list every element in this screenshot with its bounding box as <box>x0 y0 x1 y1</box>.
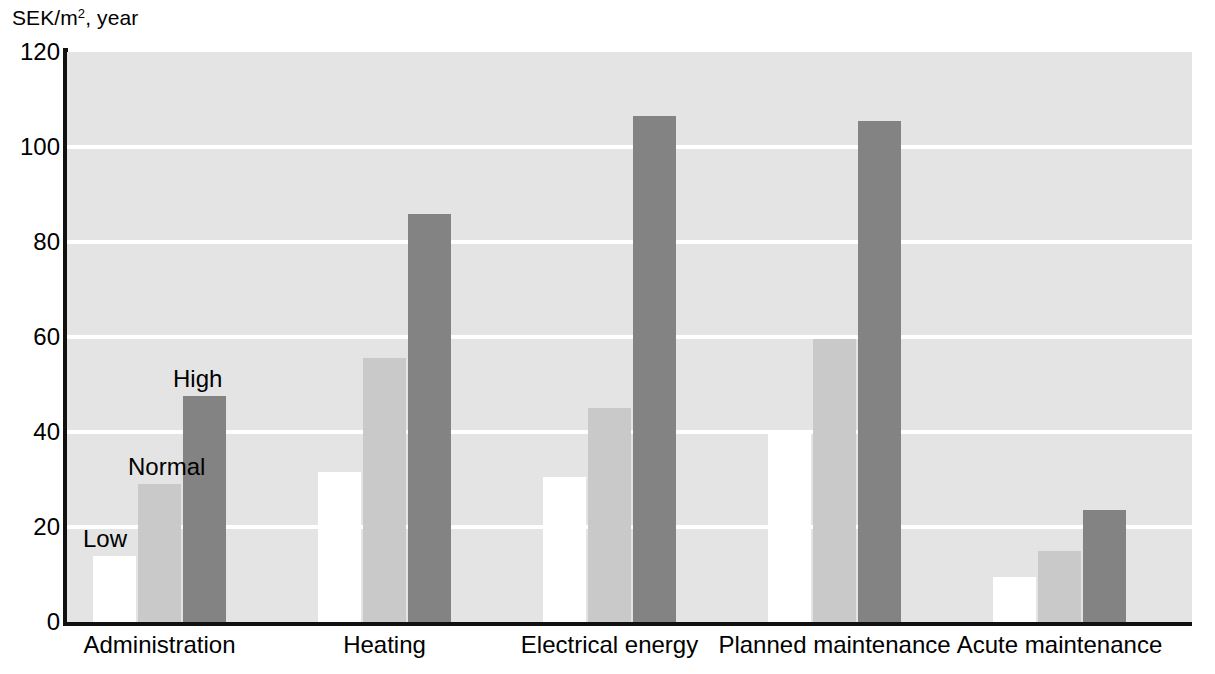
x-axis-category-label: Heating <box>343 630 426 660</box>
y-axis-tick-label: 80 <box>2 230 60 254</box>
x-axis-category-labels: AdministrationHeatingElectrical energyPl… <box>67 630 1192 670</box>
bar <box>543 477 586 622</box>
bar <box>408 214 451 623</box>
bar <box>93 556 136 623</box>
y-axis-tick-label: 100 <box>2 135 60 159</box>
y-axis-unit-prefix: SEK/m <box>12 6 78 29</box>
y-axis-tick-label: 40 <box>2 420 60 444</box>
bar <box>318 472 361 622</box>
y-axis-unit-label: SEK/m2, year <box>12 6 138 30</box>
x-axis-category-label: Administration <box>83 630 235 660</box>
bar <box>993 577 1036 622</box>
y-axis-tick-label: 60 <box>2 325 60 349</box>
bar <box>858 121 901 622</box>
bar <box>588 408 631 622</box>
series-annotation-low: Low <box>83 526 127 552</box>
x-axis-category-label: Planned maintenance <box>718 630 950 660</box>
y-axis-tick-label: 0 <box>2 610 60 634</box>
x-axis-category-label: Electrical energy <box>521 630 698 660</box>
y-axis-unit-suffix: , year <box>85 6 138 29</box>
series-annotation-normal: Normal <box>128 454 205 480</box>
bar <box>768 432 811 622</box>
gridline <box>67 335 1192 339</box>
bar <box>1083 510 1126 622</box>
bar <box>363 358 406 622</box>
bar <box>633 116 676 622</box>
y-axis-tick-labels: 020406080100120 <box>0 52 60 622</box>
y-axis-tick-label: 120 <box>2 40 60 64</box>
x-axis-category-label: Acute maintenance <box>957 630 1162 660</box>
plot-area: LowNormalHigh <box>67 52 1192 622</box>
bar <box>183 396 226 622</box>
gridline <box>67 145 1192 149</box>
bar-chart-figure: SEK/m2, year 020406080100120 LowNormalHi… <box>0 0 1215 674</box>
gridline <box>67 240 1192 244</box>
series-annotation-high: High <box>173 366 222 392</box>
bar <box>1038 551 1081 622</box>
y-axis-tick-label: 20 <box>2 515 60 539</box>
bar <box>813 339 856 622</box>
bar <box>138 484 181 622</box>
